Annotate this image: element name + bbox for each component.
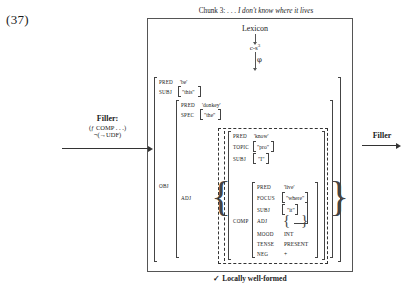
filler-left-annotation: Filler: (ƒ COMP . . .) ¬(→UDF) bbox=[60, 114, 155, 138]
chunk-title-sentence: I don't know where it lives bbox=[238, 7, 313, 15]
chunk-title: Chunk 3: . . . I don't know where it liv… bbox=[171, 7, 341, 15]
attr-neg-comp: NEG bbox=[257, 252, 268, 257]
filler-left-formula: (ƒ COMP . . .) bbox=[60, 124, 155, 131]
adj-bracket-left bbox=[228, 131, 231, 260]
c-structure-label: c-s3 bbox=[200, 43, 310, 52]
outer-bracket-left bbox=[154, 77, 157, 262]
filler-right-label: Filler bbox=[360, 131, 404, 140]
focus-bracket-left bbox=[282, 192, 285, 203]
filler-path-dashed-inner-line bbox=[224, 131, 225, 261]
cstructure-to-fstructure-arrowhead bbox=[253, 68, 257, 71]
attr-pred-obj: PRED bbox=[181, 103, 195, 108]
subj-outer-bracket-left bbox=[178, 86, 181, 97]
filler-left-arrowhead bbox=[148, 146, 153, 152]
subj-adj-bracket-left bbox=[253, 153, 256, 164]
filler-right-arrowhead bbox=[396, 143, 401, 149]
attr-comp-adj: COMP bbox=[233, 219, 249, 224]
subj-outer-bracket-right bbox=[198, 86, 201, 97]
obj-bracket-left bbox=[176, 100, 179, 258]
chunk-title-prefix: Chunk 3: . . . bbox=[199, 7, 236, 15]
filler-right-arrow-line bbox=[362, 145, 398, 146]
val-tense-comp: PRESENT bbox=[284, 242, 308, 248]
c-structure-superscript: 3 bbox=[258, 43, 261, 48]
val-neg-comp: + bbox=[284, 252, 287, 258]
example-number: (37) bbox=[6, 12, 29, 28]
attr-focus-comp: FOCUS bbox=[257, 196, 275, 201]
adj-bracket-right bbox=[322, 131, 325, 260]
subj-comp-bracket-right bbox=[295, 204, 298, 215]
filler-left-arrow-line bbox=[62, 148, 150, 149]
val-spec-obj: "the" bbox=[204, 113, 215, 119]
adj-set-brace-right: } bbox=[329, 160, 349, 232]
attr-pred-comp: PRED bbox=[257, 185, 271, 190]
val-subj-adj: "I" bbox=[258, 157, 264, 163]
val-focus-comp: "where" bbox=[286, 196, 304, 202]
attr-subj-adj: SUBJ bbox=[233, 157, 246, 162]
attr-obj-outer: OBJ bbox=[159, 184, 169, 189]
attr-tense-comp: TENSE bbox=[257, 242, 274, 247]
topic-bracket-left bbox=[253, 141, 256, 152]
attr-topic-adj: TOPIC bbox=[233, 145, 249, 150]
val-pred-comp: 'live' bbox=[284, 185, 294, 191]
val-pred-obj: 'donkey' bbox=[202, 103, 220, 109]
val-pred-adj: 'know' bbox=[254, 134, 268, 140]
spec-bracket-right bbox=[218, 109, 221, 120]
lexicon-label: Lexicon bbox=[200, 24, 310, 33]
filler-left-negation: ¬(→UDF) bbox=[60, 131, 155, 138]
attr-subj-comp: SUBJ bbox=[257, 208, 270, 213]
val-subj-outer: "this" bbox=[182, 90, 195, 96]
attr-mood-comp: MOOD bbox=[257, 232, 274, 237]
attr-pred-outer: PRED bbox=[159, 80, 173, 85]
attr-adj-obj: ADJ bbox=[181, 196, 191, 201]
comp-bracket-left bbox=[252, 182, 255, 258]
attr-subj-outer: SUBJ bbox=[159, 90, 172, 95]
val-topic-adj: "pro" bbox=[257, 145, 269, 151]
val-mood-comp: INT bbox=[284, 232, 293, 238]
cstructure-to-fstructure-arrow bbox=[255, 52, 256, 69]
topic-bracket-right bbox=[271, 141, 274, 152]
attr-pred-adj: PRED bbox=[233, 134, 247, 139]
attr-spec-obj: SPEC bbox=[181, 113, 194, 118]
comp-bracket-right bbox=[315, 182, 318, 258]
attr-adj-comp: ADJ bbox=[257, 219, 267, 224]
well-formedness-caption: ✓ Locally well-formed bbox=[147, 274, 353, 283]
reentrancy-line-horizontal bbox=[294, 223, 308, 224]
comp-adj-set-brace-left: { bbox=[283, 212, 290, 228]
phi-projection-label: φ bbox=[257, 56, 262, 64]
val-pred-outer: 'be' bbox=[180, 80, 187, 86]
reentrancy-line-vertical bbox=[307, 197, 308, 224]
filler-left-title: Filler: bbox=[60, 114, 155, 123]
spec-bracket-left bbox=[200, 109, 203, 120]
subj-adj-bracket-right bbox=[266, 153, 269, 164]
